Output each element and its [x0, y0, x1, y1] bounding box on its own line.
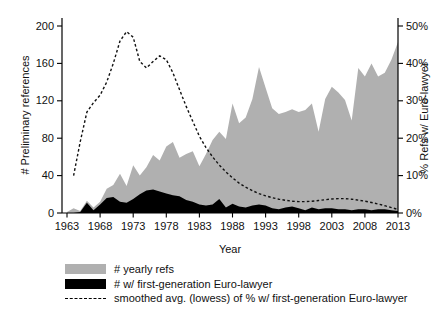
chart-figure: 040801201602000%10%20%30%40%50%196319681… [0, 0, 437, 324]
tick-label: 2008 [353, 220, 377, 232]
tick-label: 2003 [320, 220, 344, 232]
legend-label-yearly-refs: # yearly refs [114, 263, 174, 275]
yearly-refs-area [67, 42, 398, 213]
x-axis-title: Year [219, 243, 241, 255]
tick-label: 0% [406, 207, 422, 219]
legend-label-lowess: smoothed avg. (lowess) of % w/ first-gen… [114, 292, 407, 304]
tick-label: 1988 [220, 220, 244, 232]
tick-label: 50% [406, 20, 428, 32]
tick-label: 1978 [154, 220, 178, 232]
legend-item-yearly-refs: # yearly refs [65, 262, 407, 277]
left-axis-title: # Preliminary references [19, 55, 31, 174]
tick-label: 40 [42, 169, 54, 181]
legend-label-first-gen: # w/ first-generation Euro-lawyer [114, 278, 272, 290]
tick-label: 160 [36, 57, 54, 69]
tick-label: 0 [48, 207, 54, 219]
tick-label: 80 [42, 132, 54, 144]
tick-label: 1993 [253, 220, 277, 232]
tick-label: 1968 [88, 220, 112, 232]
tick-label: 200 [36, 20, 54, 32]
legend: # yearly refs # w/ first-generation Euro… [65, 262, 407, 306]
gray-area-swatch-icon [65, 264, 106, 274]
tick-label: 1973 [121, 220, 145, 232]
tick-label: 1983 [187, 220, 211, 232]
legend-item-first-gen: # w/ first-generation Euro-lawyer [65, 277, 407, 292]
tick-label: 1963 [55, 220, 79, 232]
right-axis-title: % Refs w/ Euro-lawyer [418, 62, 430, 173]
black-area-swatch-icon [65, 279, 106, 289]
tick-label: 1998 [286, 220, 310, 232]
tick-label: 120 [36, 94, 54, 106]
tick-label: 2013 [386, 220, 410, 232]
legend-item-lowess: smoothed avg. (lowess) of % w/ first-gen… [65, 291, 407, 306]
dashed-line-swatch-icon [65, 298, 106, 299]
